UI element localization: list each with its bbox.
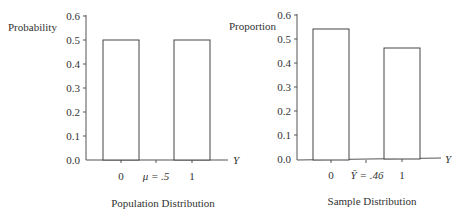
figure: Probability 0.0 0.1 0.2 0.3 0.4 0.5 0.6 … [0,0,458,219]
left-ytick-1: 0.1 [66,130,80,142]
right-ytick-0: 0.0 [277,153,291,165]
left-ytick-6: 0.6 [66,10,80,22]
right-bar-0 [313,29,349,160]
right-ytick-2: 0.2 [277,105,291,117]
left-ytick-3: 0.3 [66,82,80,94]
right-x-axis-label: Y [445,153,453,165]
right-ytick-3: 0.3 [277,81,291,93]
left-bar-1 [174,40,210,160]
left-bar-0 [103,40,139,160]
right-ytick-6: 0.6 [277,9,291,21]
population-chart: Probability 0.0 0.1 0.2 0.3 0.4 0.5 0.6 … [8,10,241,209]
right-chart-title: Sample Distribution [328,195,417,207]
right-ytick-1: 0.1 [277,129,291,141]
left-xtick-0: 0 [118,170,124,182]
right-ytick-5: 0.5 [277,33,291,45]
right-mean-label: Ȳ = .46 [351,169,384,181]
left-mean-label: μ = .5 [142,170,170,182]
left-chart-title: Population Distribution [111,197,215,209]
left-y-label: Probability [8,21,57,33]
left-ytick-2: 0.2 [66,106,80,118]
right-y-label: Proportion [229,20,277,32]
right-xtick-0: 0 [328,169,334,181]
right-bar-1 [384,48,420,159]
left-xtick-1: 1 [189,170,195,182]
left-ytick-4: 0.4 [66,58,80,70]
left-x-axis-label: Y [233,154,241,166]
right-ytick-4: 0.4 [277,57,291,69]
left-ytick-0: 0.0 [66,154,80,166]
left-ytick-5: 0.5 [66,34,80,46]
sample-chart: Proportion 0.0 0.1 0.2 0.3 0.4 0.5 0.6 Y… [229,9,453,207]
right-xtick-1: 1 [399,169,405,181]
